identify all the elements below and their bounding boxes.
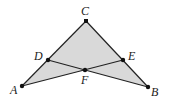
- label-C: C: [81, 4, 90, 18]
- label-D: D: [33, 49, 43, 63]
- triangle-diagram: A B C D E F: [0, 0, 170, 104]
- point-D: [46, 58, 50, 62]
- point-E: [121, 58, 125, 62]
- label-B: B: [151, 85, 159, 99]
- geometry-figure: A B C D E F: [0, 0, 170, 104]
- point-B: [146, 85, 150, 89]
- label-A: A: [9, 83, 18, 97]
- point-C: [84, 19, 88, 23]
- label-F: F: [80, 73, 89, 87]
- point-F: [83, 68, 87, 72]
- label-E: E: [127, 49, 136, 63]
- point-A: [20, 84, 24, 88]
